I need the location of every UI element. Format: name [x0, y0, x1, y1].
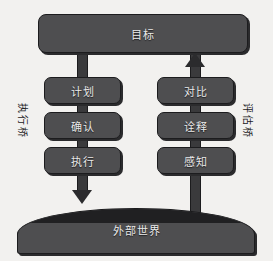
- evaluation-step-interpret: 诠释: [157, 112, 234, 139]
- evaluation-step-interpret-label: 诠释: [184, 118, 208, 134]
- external-world-node: 外部世界: [17, 208, 255, 254]
- connector-goal-to-plan: [77, 50, 88, 80]
- execution-step-plan-label: 计划: [71, 83, 95, 99]
- execution-step-execute: 执行: [44, 147, 121, 174]
- execution-step-confirm-label: 确认: [71, 118, 95, 134]
- evaluation-bridge-label: 评估桥: [241, 95, 256, 147]
- execution-step-plan: 计划: [44, 77, 121, 104]
- action-cycle-diagram: 目标 计划 确认 执行 对比 诠释 感知 执行桥 评估桥 外部世界: [0, 0, 273, 261]
- execution-step-execute-label: 执行: [71, 153, 95, 169]
- external-world-label: 外部世界: [18, 222, 255, 238]
- evaluation-arrow-up-icon: [185, 53, 205, 67]
- execution-bridge-label: 执行桥: [16, 95, 31, 147]
- execution-arrow-down-icon: [72, 190, 92, 204]
- evaluation-step-compare-label: 对比: [184, 83, 208, 99]
- evaluation-step-perceive: 感知: [157, 147, 234, 174]
- execution-step-confirm: 确认: [44, 112, 121, 139]
- goal-node: 目标: [38, 14, 248, 53]
- goal-node-label: 目标: [131, 26, 155, 42]
- evaluation-step-compare: 对比: [157, 77, 234, 104]
- evaluation-step-perceive-label: 感知: [184, 153, 208, 169]
- external-world-top-edge: [17, 208, 255, 223]
